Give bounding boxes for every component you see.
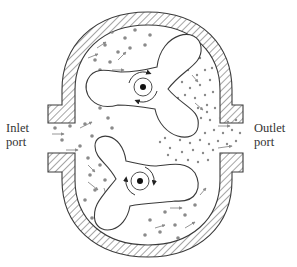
upper-rotor (86, 34, 201, 137)
pump-casing (48, 12, 243, 257)
inlet-port-label: Inlet port (6, 121, 29, 149)
inlet-label-line1: Inlet (6, 121, 29, 135)
lower-rotor (94, 136, 198, 230)
outlet-label-line1: Outlet (254, 121, 285, 135)
outlet-label-line2: port (254, 135, 285, 149)
outlet-port-label: Outlet port (254, 121, 285, 149)
pump-drawing (0, 0, 297, 267)
lobe-pump-diagram: Inlet port Outlet port (0, 0, 297, 267)
inlet-label-line2: port (6, 135, 29, 149)
